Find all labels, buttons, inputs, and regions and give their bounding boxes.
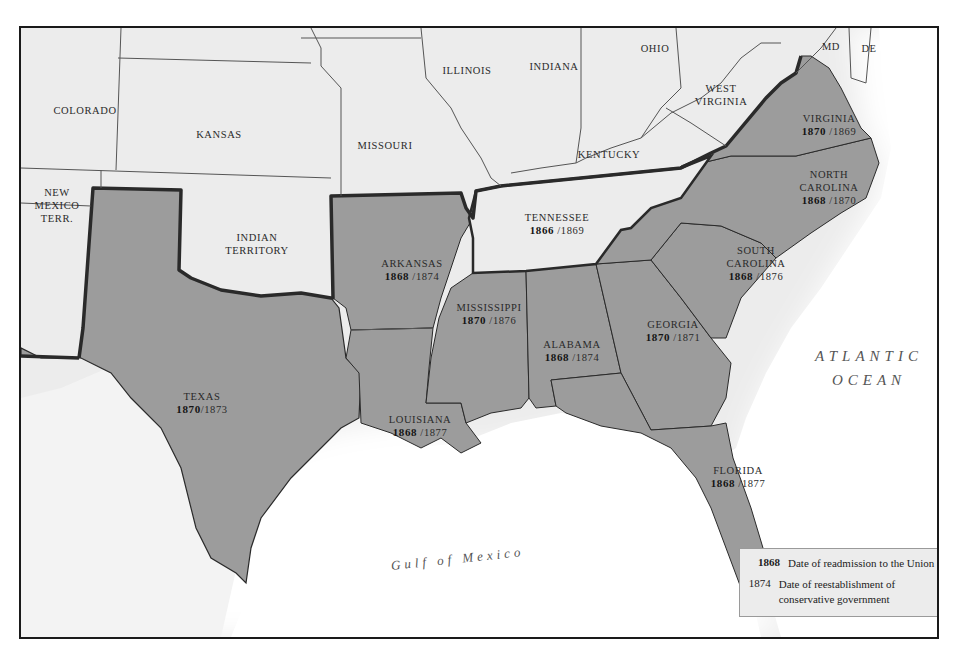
label-indian-territory: INDIAN TERRITORY: [225, 231, 289, 257]
label-delaware: DE: [861, 42, 876, 55]
label-kansas: KANSAS: [196, 128, 242, 141]
label-alabama: ALABAMA 1868 /1874: [543, 338, 600, 364]
label-new-mexico-territory: NEW MEXICO TERR.: [34, 186, 79, 225]
label-texas: TEXAS 1870/1873: [176, 390, 227, 416]
label-ohio: OHIO: [641, 42, 670, 55]
label-virginia: VIRGINIA 1870 /1869: [802, 112, 857, 138]
label-kentucky: KENTUCKY: [578, 148, 641, 161]
label-south-carolina: SOUTH CAROLINA 1868 /1876: [726, 244, 785, 283]
label-colorado: COLORADO: [53, 104, 116, 117]
reconstruction-map: [21, 28, 937, 637]
label-indiana: INDIANA: [529, 60, 578, 73]
label-arkansas: ARKANSAS 1868 /1874: [381, 257, 442, 283]
label-georgia: GEORGIA 1870 /1871: [646, 318, 701, 344]
legend-item-readmission: 1868 Date of readmission to the Union: [746, 556, 934, 571]
label-tennessee: TENNESSEE 1866 /1869: [525, 211, 589, 237]
label-mississippi: MISSISSIPPI 1870 /1876: [457, 301, 522, 327]
label-illinois: ILLINOIS: [442, 64, 491, 77]
label-florida: FLORIDA 1868 /1877: [711, 464, 766, 490]
label-louisiana: LOUISIANA 1868 /1877: [389, 413, 452, 439]
confederacy-border-west: [21, 356, 79, 358]
legend-item-conservative: 1874 Date of reestablishment of conserva…: [746, 577, 939, 607]
label-atlantic-ocean: ATLANTIC OCEAN: [815, 344, 923, 392]
label-maryland: MD: [822, 40, 840, 53]
map-legend: 1868 Date of readmission to the Union 18…: [739, 548, 939, 617]
label-north-carolina: NORTH CAROLINA 1868 /1870: [799, 168, 858, 207]
map-frame: COLORADO KANSAS MISSOURI ILLINOIS INDIAN…: [19, 26, 939, 639]
label-west-virginia: WEST VIRGINIA: [695, 82, 748, 108]
label-missouri: MISSOURI: [358, 139, 413, 152]
